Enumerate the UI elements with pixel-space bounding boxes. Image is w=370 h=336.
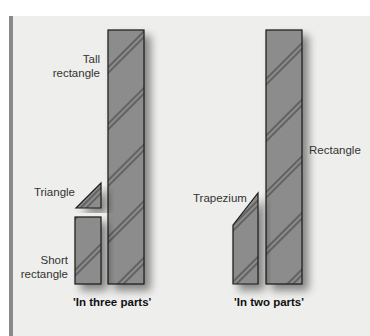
label-line: Tall (40, 52, 100, 66)
trapezium (233, 193, 258, 284)
tall-rectangle-left (108, 30, 144, 284)
shapes-figure (0, 0, 370, 336)
label-line: Short (10, 253, 68, 267)
label-line: rectangle (40, 66, 100, 80)
rectangle-right (266, 30, 302, 284)
triangle (76, 183, 101, 208)
caption-in-three-parts: 'In three parts' (73, 296, 151, 308)
caption-in-two-parts: 'In two parts' (234, 296, 304, 308)
short-rectangle (75, 217, 101, 284)
label-trapezium: Trapezium (193, 191, 247, 205)
label-line: rectangle (10, 267, 68, 281)
label-tall-rectangle: Tall rectangle (40, 52, 100, 80)
label-triangle: Triangle (20, 185, 75, 199)
label-short-rectangle: Short rectangle (10, 253, 68, 281)
label-rectangle: Rectangle (309, 143, 361, 157)
